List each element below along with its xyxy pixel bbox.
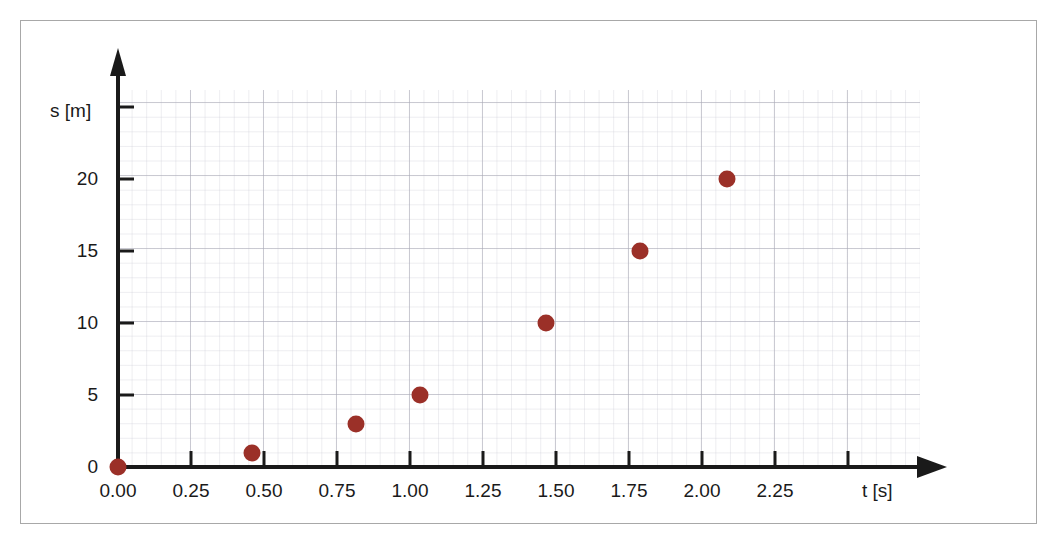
data-point <box>632 243 649 260</box>
x-tick-label-0.50: 0.50 <box>246 480 283 502</box>
y-tick-label-0: 0 <box>40 456 98 478</box>
data-point <box>348 416 365 433</box>
x-tick-label-1.00: 1.00 <box>392 480 429 502</box>
y-tick-label-15: 15 <box>40 240 98 262</box>
figure-container: 0 5 10 15 20 s [m] 0.00 0.25 0.50 0.75 1… <box>0 0 1059 546</box>
y-axis <box>110 48 126 467</box>
x-tick-label-1.75: 1.75 <box>611 480 648 502</box>
data-point <box>110 459 127 476</box>
x-tick-label-0.00: 0.00 <box>100 480 137 502</box>
x-tick-label-1.50: 1.50 <box>538 480 575 502</box>
x-tick-label-0.25: 0.25 <box>173 480 210 502</box>
plot-canvas <box>0 0 1059 546</box>
x-tick-label-0.75: 0.75 <box>319 480 356 502</box>
data-point <box>538 315 555 332</box>
y-tick-label-10: 10 <box>40 312 98 334</box>
x-tick-label-1.25: 1.25 <box>465 480 502 502</box>
x-tick-label-2.25: 2.25 <box>757 480 794 502</box>
y-axis-ticks <box>118 107 134 467</box>
data-point <box>412 387 429 404</box>
x-axis <box>118 456 947 478</box>
data-point-series <box>110 171 736 476</box>
x-axis-title: t [s] <box>862 480 893 502</box>
y-tick-label-20: 20 <box>40 168 98 190</box>
y-axis-title: s [m] <box>50 100 91 122</box>
data-point <box>244 445 261 462</box>
data-point <box>719 171 736 188</box>
x-axis-ticks <box>118 451 848 467</box>
y-tick-label-5: 5 <box>40 384 98 406</box>
x-tick-label-2.00: 2.00 <box>684 480 721 502</box>
